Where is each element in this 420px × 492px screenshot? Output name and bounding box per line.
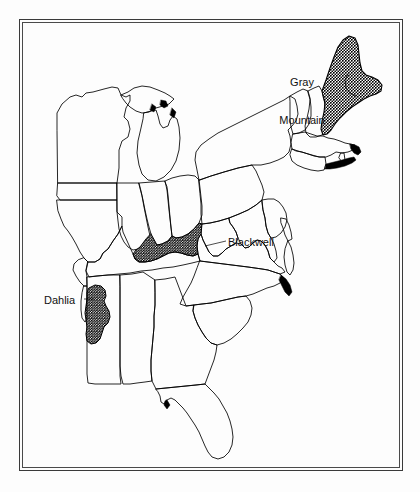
state-michigan-up <box>121 86 174 113</box>
map-label-gray-mountain: Gray Mountain <box>269 51 335 151</box>
florida-tampa-bay <box>164 400 170 409</box>
state-michigan-lp <box>137 110 180 181</box>
state-missouri <box>57 200 122 262</box>
delmarva-peninsula <box>284 241 294 275</box>
state-alabama <box>120 272 155 384</box>
cape-cod <box>350 144 361 155</box>
mississippi-shaded-region <box>85 285 110 344</box>
state-maryland <box>229 200 277 262</box>
state-georgia <box>151 277 217 389</box>
map-canvas <box>0 0 420 492</box>
lake-detail-3 <box>170 108 176 118</box>
state-florida <box>156 384 233 459</box>
map-label-blackwell: Blackwell <box>228 236 274 249</box>
state-north-carolina <box>180 261 284 306</box>
map-label-dahlia: Dahlia <box>44 294 75 307</box>
state-iowa <box>57 183 117 200</box>
map-label-gray-mountain-line1: Gray <box>269 76 335 89</box>
state-pennsylvania <box>199 165 264 224</box>
long-island <box>325 157 356 169</box>
state-arkansas <box>73 258 88 286</box>
figure-container: Gray Mountain Blackwell Dahlia <box>0 0 420 492</box>
state-wisconsin <box>57 87 130 183</box>
map-label-gray-mountain-line2: Mountain <box>269 114 335 127</box>
leader-line-blackwell <box>205 241 226 246</box>
state-south-carolina <box>193 296 252 345</box>
state-connecticut <box>290 149 326 171</box>
outer-banks <box>279 275 292 296</box>
